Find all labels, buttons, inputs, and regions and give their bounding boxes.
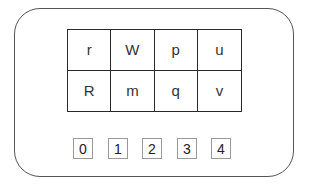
index-box: 4	[211, 138, 231, 159]
index-box: 0	[73, 138, 93, 159]
letter-grid: r W p u R m q v	[67, 29, 242, 112]
grid-cell: R	[68, 71, 111, 112]
grid-cell: r	[68, 30, 111, 71]
grid-cell: q	[155, 71, 198, 112]
grid-cell: W	[111, 30, 154, 71]
grid-cell: u	[198, 30, 241, 71]
index-box: 3	[177, 138, 197, 159]
index-box: 1	[108, 138, 128, 159]
grid-cell: m	[111, 71, 154, 112]
index-box: 2	[142, 138, 162, 159]
grid-cell: p	[155, 30, 198, 71]
grid-cell: v	[198, 71, 241, 112]
